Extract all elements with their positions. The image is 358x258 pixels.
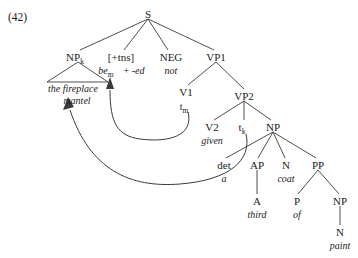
example-number: (42) [8,11,27,24]
node-v1: V1 [179,86,192,98]
terminal-be: bem [98,65,113,79]
node-np-k-text: NP [66,51,80,63]
node-vp1: VP1 [206,51,226,63]
node-n-coat: N [282,159,290,171]
branch-vp1-v1 [188,62,216,85]
branch-vp1-vp2 [216,62,244,89]
node-vp2: VP2 [234,90,254,102]
node-trace-k: tk [239,121,246,136]
node-tns: [+tns] [108,51,134,63]
terminal-a: a [222,173,227,184]
node-np-k-subscript: k [80,57,84,66]
terminal-of: of [293,209,302,220]
syntax-tree-svg: (42) [0,0,358,258]
figure-canvas: (42) [0,0,358,258]
terminal-coat: coat [277,173,294,184]
terminal-the-fireplace: the fireplace [48,83,98,94]
branch-s-npk [80,19,148,50]
terminal-affix-ed: + -ed [124,65,146,76]
terminal-trace-m: tm [180,101,189,115]
np-movement-arrow [70,110,247,185]
head-movement-arrow [110,90,189,140]
terminal-third: third [247,209,267,220]
terminal-not: not [165,65,178,76]
branch-vp2-np [244,101,271,120]
terminal-mantel: mantel [63,95,90,106]
node-s: S [145,8,151,20]
node-n-paint: N [336,226,344,238]
node-v2: V2 [205,121,218,133]
branch-vp2-v2 [214,101,244,120]
node-ap: AP [250,159,264,171]
branch-s-tns [124,19,148,50]
branch-pp-np [318,170,339,194]
terminal-paint: paint [329,240,351,251]
node-np: NP [266,121,280,133]
node-pp: PP [312,159,324,171]
node-np-paint: NP [333,195,347,207]
tree-node-labels: S NPk [+tns] NEG VP1 V1 VP2 V2 tk NP det… [66,8,347,238]
node-det: det [217,159,230,171]
terminal-trace-m-subscript: m [182,106,188,115]
tree-terminals: the fireplace mantel bem + -ed not tm gi… [48,65,350,251]
terminal-be-subscript: m [108,70,114,79]
node-neg: NEG [160,51,183,63]
terminal-given: given [201,135,223,146]
branch-pp-p [298,170,318,194]
node-a: A [253,195,261,207]
head-movement-arrowhead [106,77,114,89]
node-p: P [294,195,300,207]
node-trace-k-subscript: k [242,127,246,136]
